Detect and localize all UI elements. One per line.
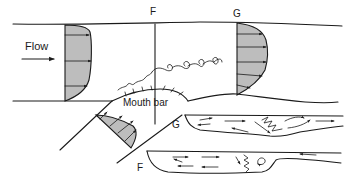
right-bank: [188, 94, 338, 103]
vortex-waves: [118, 57, 222, 90]
longitudinal-section-g: G: [172, 115, 343, 136]
mouth-bar-label: Mouth bar: [123, 97, 169, 108]
channel-top-bank: [13, 22, 342, 26]
mouth-bar: Mouth bar: [112, 86, 188, 108]
inflow-velocity-profile: [65, 25, 91, 101]
section-f-label: F: [150, 6, 156, 17]
section-g-label: G: [233, 8, 241, 19]
section-g-profile: G: [233, 8, 267, 95]
flow-indicator: Flow: [22, 40, 54, 59]
flow-label: Flow: [25, 40, 48, 52]
section-f-profile-label: F: [137, 162, 143, 173]
longitudinal-section-f: F: [137, 151, 341, 173]
section-g-profile-label: G: [172, 119, 180, 130]
oblique-channel: [60, 101, 182, 163]
flow-diagram: Flow F G Mouth bar: [0, 0, 354, 183]
diagram-canvas: Flow F G Mouth bar: [0, 0, 354, 183]
